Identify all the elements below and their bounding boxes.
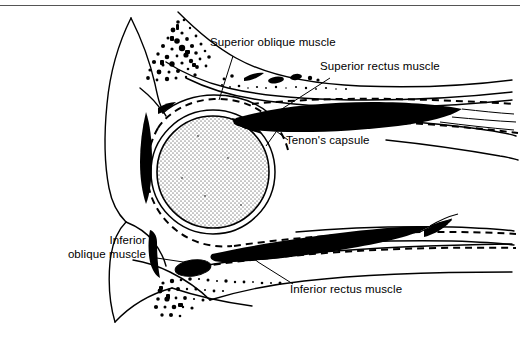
orbital-roof-speckle-band [221,84,347,90]
leader-inferior-rectus [258,262,293,284]
label-inferior-rectus-muscle: Inferior rectus muscle [290,283,402,296]
superior-orbital-bone-stipple [146,19,211,82]
inferior-oblique-muscle-body [174,258,212,279]
label-superior-oblique-muscle: Superior oblique muscle [210,36,336,49]
anatomy-illustration [0,0,520,341]
leader-tenons-capsule-2 [266,132,276,146]
label-superior-rectus-muscle: Superior rectus muscle [320,60,440,73]
superior-oblique-muscle-marks [223,73,320,85]
label-inferior-oblique-muscle-line2: oblique muscle [24,248,146,261]
label-tenons-capsule: Tenon's capsule [286,134,370,147]
label-inferior-oblique-muscle-line1: Inferior [24,234,146,247]
inferior-rectus-muscle-body [210,214,458,262]
eye-anatomy-figure: Superior oblique muscle Superior rectus … [0,0,520,341]
